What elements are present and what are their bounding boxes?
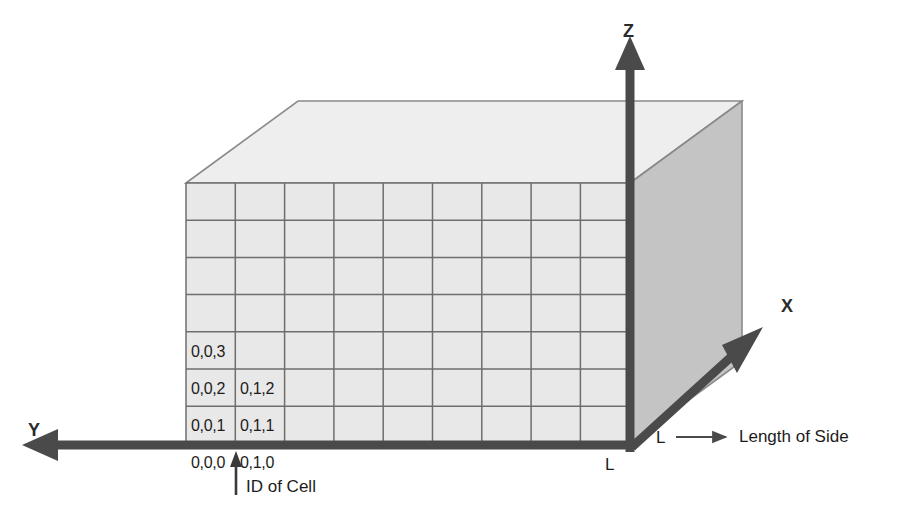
x-axis-label: X [781, 297, 793, 315]
cell-label-0-1-0: 0,1,0 [240, 455, 274, 471]
side-length-bottom-label: L [605, 456, 614, 473]
id-of-cell-label: ID of Cell [246, 478, 316, 495]
legend-symbol-label: L [656, 429, 665, 446]
cell-label-0-0-0: 0,0,0 [191, 455, 225, 471]
y-axis-label: Y [28, 421, 40, 439]
z-axis-label: Z [623, 22, 634, 40]
cell-label-0-0-2: 0,0,2 [191, 381, 225, 397]
cell-label-0-0-3: 0,0,3 [191, 344, 225, 360]
cube-front-face [186, 183, 630, 443]
cube-grid-illustration: Length of Side ===== --> [0, 0, 921, 525]
legend-description-label: Length of Side [739, 428, 849, 445]
diagram-canvas: Length of Side ===== --> 0,0,3 0,0,2 0,1… [0, 0, 921, 525]
cell-label-0-1-1: 0,1,1 [240, 418, 274, 434]
cell-label-0-1-2: 0,1,2 [240, 381, 274, 397]
cell-label-0-0-1: 0,0,1 [191, 418, 225, 434]
